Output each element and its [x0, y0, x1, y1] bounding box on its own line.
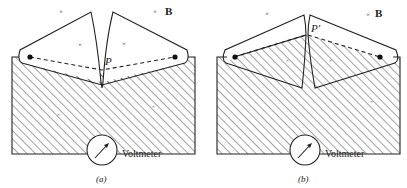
contact-dot-left-a — [27, 54, 32, 59]
panel-b: × × × × × B P′ Voltmeter (b) — [217, 7, 400, 184]
field-marker: × — [152, 104, 155, 109]
field-marker: × — [329, 58, 332, 63]
field-marker: × — [57, 112, 60, 117]
field-marker: × — [366, 11, 370, 19]
caption-b: (b) — [298, 174, 309, 184]
field-marker: × — [153, 8, 157, 16]
contact-dot-right-a — [172, 54, 177, 59]
point-label-p-prime: P′ — [310, 22, 321, 34]
panel-a: × × × × × × B P Voltmeter (a) — [12, 5, 195, 184]
contact-dot-left-b — [232, 54, 237, 59]
field-label-b: B — [375, 7, 383, 19]
field-marker: × — [370, 99, 373, 104]
contact-dot-right-b — [377, 54, 382, 59]
field-marker: × — [265, 10, 269, 18]
field-label-b: B — [165, 5, 173, 17]
voltmeter-label: Voltmeter — [325, 148, 365, 159]
field-marker: × — [59, 8, 63, 16]
diagram-canvas: × × × × × × B P Voltmeter (a) — [0, 0, 407, 188]
field-marker: × — [122, 40, 126, 48]
field-marker: × — [78, 41, 82, 49]
voltmeter-label: Voltmeter — [122, 148, 162, 159]
caption-a: (a) — [96, 174, 107, 184]
field-marker: × — [286, 58, 289, 63]
point-label-p: P — [104, 55, 112, 67]
